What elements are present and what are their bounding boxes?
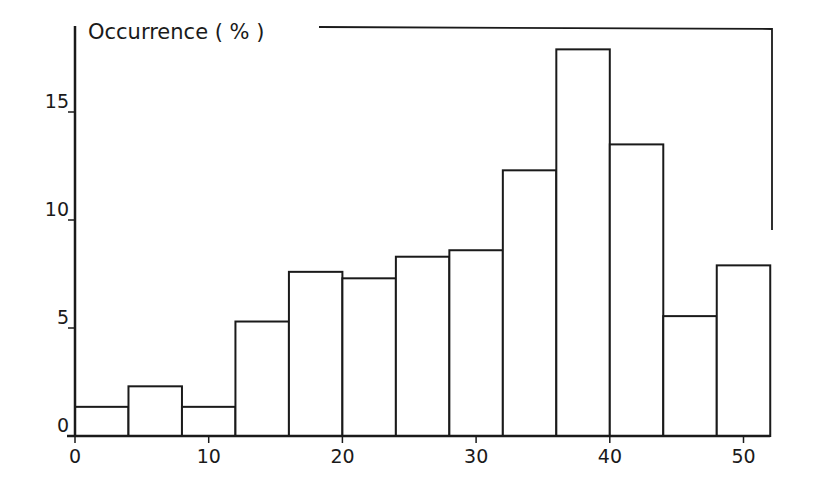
histogram-bar — [396, 257, 449, 436]
histogram-bar — [235, 322, 288, 436]
x-tick-label: 40 — [598, 447, 622, 466]
x-tick-label: 30 — [464, 447, 488, 466]
histogram-bar — [449, 250, 502, 436]
histogram-chart — [0, 0, 813, 495]
histogram-bar — [663, 316, 716, 436]
histogram-bar — [75, 407, 128, 436]
histogram-bar — [128, 386, 181, 436]
histogram-bar — [182, 407, 235, 436]
y-tick-label: 0 — [57, 416, 69, 435]
x-tick-label: 10 — [197, 447, 221, 466]
y-tick-label: 5 — [57, 308, 69, 327]
histogram-bar — [717, 265, 770, 436]
histogram-bar — [503, 170, 556, 436]
y-tick-label: 15 — [45, 92, 69, 111]
histogram-bar — [556, 49, 609, 436]
y-axis-label: Occurrence ( % ) — [88, 20, 264, 44]
x-tick-label: 0 — [69, 447, 81, 466]
y-tick-label: 10 — [45, 200, 69, 219]
histogram-bar — [610, 144, 663, 436]
x-tick-label: 20 — [330, 447, 354, 466]
histogram-bar — [342, 278, 395, 436]
histogram-bar — [289, 272, 342, 436]
x-tick-label: 50 — [732, 447, 756, 466]
